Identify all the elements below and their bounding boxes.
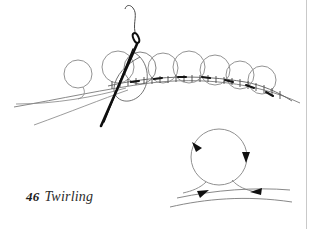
detail-diagram [170, 129, 292, 207]
detail-fabric-arc [170, 198, 292, 207]
figure-page: 46Twirling [0, 0, 313, 229]
arrow-loop-upper-left-icon [192, 142, 202, 152]
loop-group [64, 51, 276, 94]
figure-caption: 46Twirling [26, 189, 93, 205]
detail-thread-line [177, 189, 290, 198]
figure-number: 46 [26, 189, 39, 204]
page-border-rule [306, 0, 307, 229]
main-diagram [14, 5, 300, 126]
arrow-loop-right-icon [242, 152, 250, 163]
needle-thread [125, 5, 135, 32]
stitch-ticks [112, 75, 280, 99]
figure-title: Twirling [44, 189, 93, 204]
needle-eye-icon [132, 32, 141, 44]
arrow-thread-left-icon [197, 190, 209, 198]
loop-tail-left [78, 87, 84, 99]
twirl-loop [64, 60, 92, 88]
detail-loop-leg-right [232, 180, 256, 192]
detail-loop [191, 129, 247, 185]
